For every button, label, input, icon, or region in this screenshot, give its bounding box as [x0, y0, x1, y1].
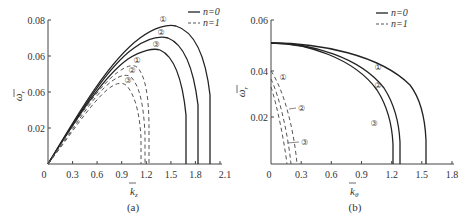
caption-b: (b): [349, 201, 362, 214]
curve-label: ③: [370, 119, 377, 128]
curve-label: ③: [124, 76, 131, 85]
x-axis-label-a: kz: [129, 183, 138, 199]
curve-label: ②: [157, 28, 164, 37]
legend-label: n=1: [391, 18, 408, 29]
curve-a-n0-3: [48, 49, 186, 164]
figure: 0.08 0.06 0.06 0.02 0 0.3 0.6 0.9 1.2 1.…: [0, 0, 466, 218]
x-tick-label: 1.2: [140, 169, 153, 180]
curve-b-n1-1: [271, 71, 297, 164]
chart-a: 0.08 0.06 0.06 0.02 0 0.3 0.6 0.9 1.2 1.…: [12, 6, 231, 214]
curve-a-n1-1: [48, 66, 149, 164]
curve-label: ①: [279, 73, 286, 82]
x-tick-label: 1.8: [446, 169, 459, 180]
x-tick-label: 1.5: [165, 169, 178, 180]
curve-label: ①: [133, 56, 140, 65]
x-axis-label-b: kθ: [349, 183, 359, 199]
curve-a-n1-3: [48, 83, 141, 164]
curve-label: ①: [374, 63, 381, 72]
x-tick-label: 0.3: [66, 169, 79, 180]
curve-label: ②: [374, 81, 381, 90]
legend-label: n=1: [203, 17, 220, 28]
y-tick-label: 0.04: [251, 66, 269, 77]
legend-a: n=0 n=1: [188, 6, 220, 28]
curve-b-n0-3: [271, 43, 393, 164]
x-tick-label: 1.8: [189, 169, 202, 180]
y-tick-label: 0.02: [251, 112, 269, 123]
x-tick-label: 0: [42, 169, 47, 180]
curve-b-n1-3: [271, 87, 287, 164]
curve-label: ②: [128, 66, 135, 75]
x-tick-label: 1.2: [385, 169, 398, 180]
x-tick-label: 0: [267, 169, 272, 180]
legend-label: n=0: [391, 7, 408, 18]
leader-line: [287, 142, 299, 143]
x-tick-label: 0.9: [355, 169, 368, 180]
chart-b: 0.06 0.04 0.02 0 0.3 0.6 0.9 1.2 1.5 1.8…: [235, 7, 458, 214]
svg-text:kz: kz: [130, 185, 138, 199]
curve-b-n0-2: [271, 43, 400, 164]
x-tick-label: 0.3: [295, 169, 308, 180]
legend-label: n=0: [203, 6, 220, 17]
curve-b-n0-1: [271, 43, 426, 164]
x-tick-label: 2.1: [219, 169, 232, 180]
legend-b: n=0 n=1: [376, 7, 408, 29]
y-tick-label: 0.02: [28, 123, 46, 134]
y-tick-label: 0.08: [28, 15, 46, 26]
curve-a-n0-2: [48, 37, 198, 164]
y-axis-label-b: ωr: [235, 85, 250, 97]
y-tick-label: 0.06: [251, 15, 269, 26]
curve-label: ③: [152, 40, 159, 49]
x-tick-label: 0.9: [115, 169, 128, 180]
curve-label: ③: [301, 138, 308, 147]
y-tick-label: 0.06: [28, 51, 46, 62]
y-tick-label: 0.06: [28, 87, 46, 98]
curve-label: ②: [298, 104, 305, 113]
x-tick-label: 0.6: [91, 169, 104, 180]
leader-line: [289, 108, 296, 109]
svg-text:kθ: kθ: [350, 185, 359, 199]
x-tick-label: 1.5: [416, 169, 429, 180]
x-tick-label: 0.6: [325, 169, 338, 180]
curve-label: ①: [159, 15, 166, 24]
caption-a: (a): [127, 201, 140, 214]
y-axis-label-a: ωr: [12, 89, 27, 101]
